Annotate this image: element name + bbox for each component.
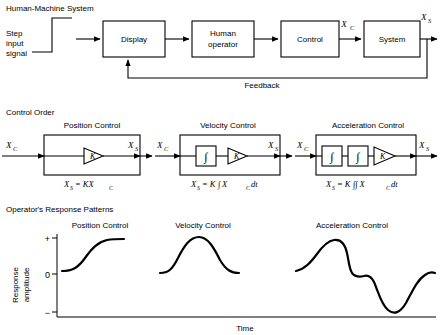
response-curve-position	[62, 239, 124, 271]
control-order-title-acceleration: Acceleration Control	[332, 121, 404, 130]
response-panel-title-acceleration: Acceleration Control	[316, 221, 388, 230]
response-section-title: Operator's Response Patterns	[6, 205, 113, 214]
velocity-input-label: X	[156, 140, 163, 150]
response-curve-acceleration	[296, 240, 435, 313]
velocity-equation-lhs-subscript: S	[197, 185, 200, 191]
position-gain-K-label: K	[89, 152, 96, 161]
y-tick-label-plus: +	[45, 234, 50, 244]
acceleration-input-label: X	[296, 140, 303, 150]
step-input-label-line-3: signal	[6, 49, 27, 58]
velocity-input-label-subscript: C	[164, 145, 169, 152]
signal-label-xc-subscript: C	[350, 24, 355, 31]
velocity-integral-icon: ∫	[203, 150, 208, 164]
step-input-label-line-2: input	[6, 39, 24, 48]
y-tick-label-minus: −	[45, 308, 50, 318]
diagram-page: Human-Machine System Step input signal D…	[0, 0, 440, 335]
acceleration-equation-lhs-subscript: S	[332, 185, 335, 191]
signal-label-xs-subscript: S	[428, 17, 432, 24]
block-control-label: Control	[297, 35, 323, 44]
position-equation-rhs: = KX	[75, 179, 95, 189]
step-signal-waveform	[32, 18, 72, 52]
response-panel-title-velocity: Velocity Control	[175, 221, 231, 230]
signal-label-xc: X	[340, 19, 347, 29]
position-equation-lhs-subscript: S	[70, 185, 73, 191]
x-axis-label: Time	[236, 324, 254, 333]
position-equation-lhs: X	[63, 179, 70, 189]
acceleration-equation-lhs: X	[325, 179, 332, 189]
block-display-label: Display	[121, 35, 147, 44]
acceleration-output-label-subscript: S	[426, 145, 430, 152]
velocity-output-label: X	[267, 140, 274, 150]
y-axis-label-line-1: Response	[11, 266, 20, 303]
y-axis-label-line-2: amplitude	[22, 267, 31, 302]
acceleration-equation-tail: dt	[391, 179, 398, 189]
response-curve-velocity	[160, 237, 239, 273]
acceleration-equation-rhs: = K ∫∫ X	[337, 179, 365, 190]
signal-label-xs: X	[420, 12, 427, 22]
block-system-label: System	[379, 35, 406, 44]
block-human-operator	[192, 21, 254, 57]
control-order-section-title: Control Order	[6, 108, 55, 117]
velocity-gain-K-label: K	[233, 152, 240, 161]
system-section-title: Human-Machine System	[6, 4, 94, 13]
acceleration-integral-icon-1: ∫	[329, 150, 334, 164]
acceleration-input-label-subscript: C	[304, 145, 309, 152]
response-panel-title-position: Position Control	[72, 221, 129, 230]
y-tick-label-zero: 0	[45, 270, 50, 280]
velocity-equation-lhs: X	[190, 179, 197, 189]
block-human-operator-label-line-2: operator	[208, 40, 238, 49]
acceleration-integral-icon-2: ∫	[355, 150, 360, 164]
position-input-label: X	[5, 140, 12, 150]
diagram-canvas: Human-Machine System Step input signal D…	[0, 0, 440, 335]
velocity-equation-rhs: = K ∫ X	[202, 179, 228, 190]
step-input-label-line-1: Step	[6, 29, 23, 38]
feedback-label: Feedback	[244, 81, 280, 90]
block-human-operator-label-line-1: Human	[210, 29, 236, 38]
position-equation-rhs-subscript: C	[109, 185, 114, 191]
velocity-equation-tail: dt	[251, 179, 258, 189]
control-order-title-velocity: Velocity Control	[200, 121, 256, 130]
acceleration-gain-K-label: K	[379, 152, 386, 161]
control-order-title-position: Position Control	[64, 121, 121, 130]
position-output-label: X	[127, 140, 134, 150]
acceleration-output-label: X	[418, 140, 425, 150]
position-input-label-subscript: C	[13, 145, 18, 152]
